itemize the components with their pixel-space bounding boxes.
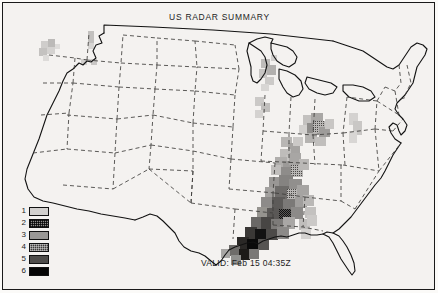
echo-mississippi-alabama xyxy=(257,175,316,221)
legend-level-label: 6 xyxy=(15,266,29,276)
echo-appalachian xyxy=(349,113,362,143)
legend-swatch-1 xyxy=(29,207,49,216)
us-radar-map xyxy=(3,3,435,290)
echo-wisconsin xyxy=(259,55,277,91)
legend-swatch-2 xyxy=(29,219,49,228)
echo-indiana-ohio xyxy=(299,113,334,146)
legend-swatch-3 xyxy=(29,231,49,240)
coastline-layer xyxy=(25,25,427,275)
map-frame: US RADAR SUMMARY VALID: Feb 15 04:35Z 1 … xyxy=(2,2,435,290)
legend-item: 6 xyxy=(15,265,59,277)
legend-level-label: 3 xyxy=(15,230,29,240)
radar-summary-screen: US RADAR SUMMARY VALID: Feb 15 04:35Z 1 … xyxy=(0,0,438,293)
legend-item: 1 xyxy=(15,205,59,217)
legend-item: 5 xyxy=(15,253,59,265)
intensity-legend: 1 2 3 4 5 6 xyxy=(15,205,59,277)
legend-item: 4 xyxy=(15,241,59,253)
legend-level-label: 2 xyxy=(15,218,29,228)
echo-illinois-iowa xyxy=(255,97,270,118)
legend-swatch-4 xyxy=(29,243,49,252)
echo-pacific-northwest xyxy=(39,39,60,61)
legend-level-label: 5 xyxy=(15,254,29,264)
legend-level-label: 4 xyxy=(15,242,29,252)
legend-item: 3 xyxy=(15,229,59,241)
radar-echo-layer xyxy=(39,31,362,265)
echo-gulf-coast xyxy=(221,217,295,265)
legend-level-label: 1 xyxy=(15,206,29,216)
legend-swatch-6 xyxy=(29,267,49,276)
legend-item: 2 xyxy=(15,217,59,229)
legend-swatch-5 xyxy=(29,255,49,264)
